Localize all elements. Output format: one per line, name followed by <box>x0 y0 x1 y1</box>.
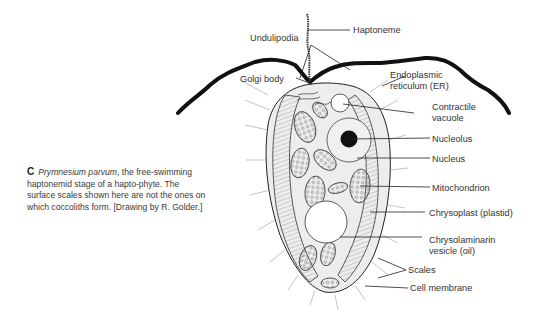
label-nucleus: Nucleus <box>432 154 466 164</box>
label-golgi-body: Golgi body <box>240 74 284 84</box>
label-mitochondrion: Mitochondrion <box>432 183 490 193</box>
label-contractile-line2: vacuole <box>432 113 464 123</box>
label-er-line2: reticulum (ER) <box>390 81 449 91</box>
haptoneme <box>307 14 310 82</box>
label-scales: Scales <box>408 265 436 275</box>
label-cell-membrane: Cell membrane <box>410 283 472 293</box>
label-nucleolus: Nucleolus <box>432 134 473 144</box>
label-chrysolaminarin-line2: vesicle (oil) <box>429 246 475 256</box>
label-haptoneme: Haptoneme <box>353 25 401 35</box>
label-undulipodia: Undulipodia <box>250 33 299 43</box>
label-er-line1: Endoplasmic <box>390 70 443 80</box>
label-chrysolaminarin-line1: Chrysolaminarin <box>429 235 495 245</box>
cell-diagram: Haptoneme Undulipodia Golgi body Endopla… <box>0 0 549 317</box>
label-contractile-line1: Contractile <box>432 102 476 112</box>
label-chrysoplast: Chrysoplast (plastid) <box>429 208 513 218</box>
contractile-vacuole <box>331 94 349 112</box>
